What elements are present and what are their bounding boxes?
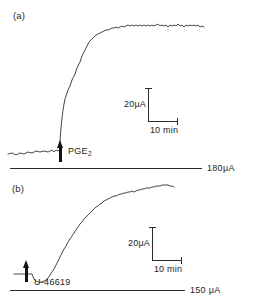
- figure-root: (a) PGE2 180μA 20μA 10 min (b) U: [0, 0, 257, 306]
- drug-label-b: U-46619: [34, 277, 71, 288]
- drug-application-arrow-a: [56, 140, 65, 162]
- scale-bar-b-vertical: [152, 227, 153, 261]
- scale-bar-b-right-cap: [181, 257, 182, 264]
- scale-bar-a-horizontal: [148, 121, 178, 122]
- scale-bar-a-time-label: 10 min: [135, 125, 193, 135]
- drug-name-a: PGE: [68, 146, 88, 156]
- scale-bar-b-time-label: 10 min: [139, 264, 197, 274]
- drug-name-b: U-46619: [34, 277, 71, 287]
- panel-a-trace: [0, 0, 257, 176]
- drug-subscript-a: 2: [88, 150, 92, 157]
- scale-bar-a: [148, 88, 178, 122]
- scale-bar-b-top-cap: [149, 227, 156, 228]
- scale-bar-a-current-label: 20μA: [106, 99, 146, 109]
- scale-bar-b-horizontal: [152, 260, 182, 261]
- arrow-shaft: [25, 266, 28, 282]
- drug-label-a: PGE2: [68, 146, 92, 157]
- scale-bar-a-right-cap: [177, 118, 178, 125]
- scale-bar-b: [152, 227, 182, 261]
- scale-bar-a-vertical: [148, 88, 149, 122]
- reference-line-a: [10, 168, 202, 169]
- reference-line-b: [10, 290, 185, 291]
- arrow-shaft: [59, 146, 62, 162]
- reference-label-a: 180μA: [207, 163, 235, 173]
- scale-bar-a-top-cap: [145, 88, 152, 89]
- reference-label-b: 150 μA: [190, 285, 221, 295]
- panel-b: (b) U-46619 150 μA 20μA 10 min: [0, 176, 257, 306]
- drug-application-arrow-b: [22, 260, 31, 282]
- panel-a: (a) PGE2 180μA 20μA 10 min: [0, 0, 257, 176]
- scale-bar-b-current-label: 20μA: [110, 238, 150, 248]
